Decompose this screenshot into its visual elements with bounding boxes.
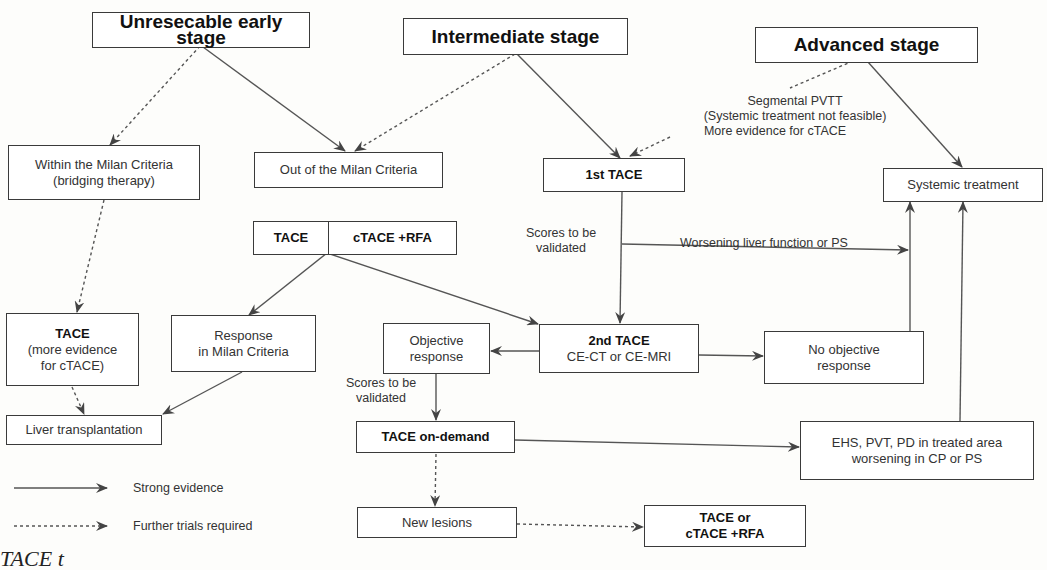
node-tace-on-demand: TACE on-demand [356, 421, 515, 453]
node-objective-response: Objective response [383, 323, 490, 374]
split-tace: TACE [254, 222, 329, 254]
response-milan-line1: Response [214, 328, 273, 344]
tace-or-line2: cTACE +RFA [686, 526, 765, 542]
liver-tx-label: Liver transplantation [25, 422, 142, 438]
stage-early-label: Unresecable early stage [93, 14, 309, 46]
systemic-label: Systemic treatment [907, 177, 1018, 193]
tace-evidence-line1: (more evidence [28, 342, 118, 358]
tace-evidence-title: TACE [55, 326, 89, 342]
node-systemic-treatment: Systemic treatment [883, 168, 1043, 202]
legend-strong-evidence: Strong evidence [133, 481, 223, 496]
node-tace-ctace-rfa: TACE cTACE +RFA [253, 221, 457, 255]
second-tace-title: 2nd TACE [588, 333, 649, 349]
objective-line1: Objective [409, 333, 463, 349]
node-new-lesions: New lesions [357, 507, 517, 538]
no-objective-line1: No objective [808, 342, 880, 358]
label-worsening-liver: Worsening liver function or PS [680, 236, 880, 251]
legend-further-trials: Further trials required [133, 519, 253, 534]
node-out-milan: Out of the Milan Criteria [254, 152, 443, 188]
objective-line2: response [410, 349, 463, 365]
figure-caption-fragment: TACE t [0, 546, 64, 570]
ehs-line1: EHS, PVT, PD in treated area [832, 435, 1003, 451]
tace-evidence-line2: for cTACE) [41, 358, 104, 374]
node-response-milan: Response in Milan Criteria [171, 315, 316, 372]
tace-or-line1: TACE or [699, 510, 750, 526]
node-no-objective-response: No objective response [764, 331, 924, 384]
stage-unresecable-early: Unresecable early stage [92, 12, 310, 48]
label-scores-validated-1: Scores to be validated [516, 226, 606, 256]
node-liver-transplantation: Liver transplantation [6, 415, 162, 445]
node-tace-more-evidence: TACE (more evidence for cTACE) [6, 313, 139, 386]
label-scores-validated-2: Scores to be validated [336, 376, 426, 406]
split-ctace-rfa: cTACE +RFA [329, 222, 456, 254]
stage-advanced: Advanced stage [755, 27, 978, 63]
node-first-tace: 1st TACE [543, 158, 685, 192]
stage-intermediate-label: Intermediate stage [432, 29, 600, 45]
stage-advanced-label: Advanced stage [794, 37, 940, 53]
new-lesions-label: New lesions [402, 515, 472, 531]
stage-intermediate: Intermediate stage [403, 18, 628, 55]
no-objective-line2: response [817, 358, 870, 374]
node-ehs-pvt-pd: EHS, PVT, PD in treated area worsening i… [800, 421, 1034, 480]
first-tace-label: 1st TACE [586, 167, 643, 183]
out-milan-label: Out of the Milan Criteria [280, 162, 417, 178]
node-second-tace: 2nd TACE CE-CT or CE-MRI [539, 324, 699, 373]
tace-on-demand-label: TACE on-demand [381, 429, 489, 445]
within-milan-line2: (bridging therapy) [53, 173, 155, 189]
label-segmental-pvtt: Segmental PVTT (Systemic treatment not f… [690, 94, 900, 139]
second-tace-sub: CE-CT or CE-MRI [567, 349, 671, 365]
node-within-milan: Within the Milan Criteria (bridging ther… [8, 145, 200, 200]
node-tace-or-ctace-rfa: TACE or cTACE +RFA [644, 505, 806, 547]
within-milan-line1: Within the Milan Criteria [35, 157, 173, 173]
response-milan-line2: in Milan Criteria [198, 344, 288, 360]
ehs-line2: worsening in CP or PS [852, 451, 983, 467]
